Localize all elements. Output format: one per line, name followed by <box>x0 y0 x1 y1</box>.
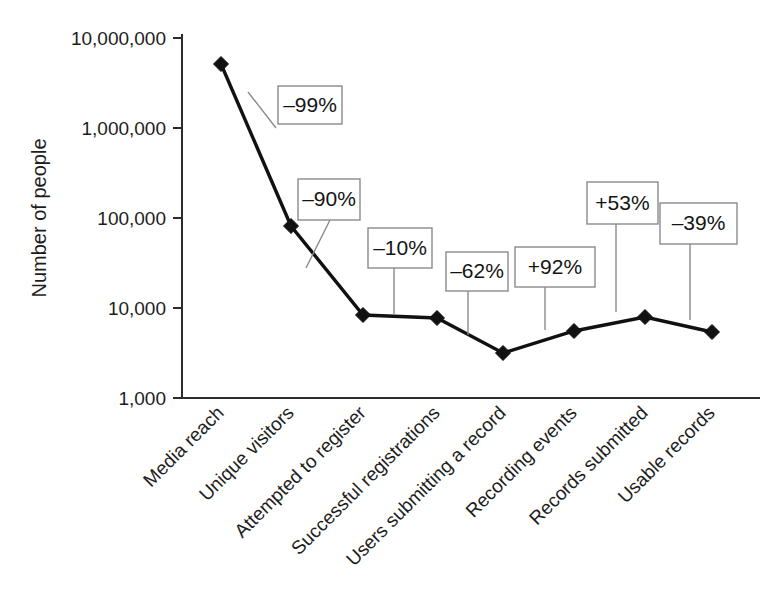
funnel-line-chart: 10,000,0001,000,000100,00010,0001,000 Nu… <box>0 0 773 606</box>
y-axis-title: Number of people <box>28 139 50 298</box>
y-axis-tick-label: 100,000 <box>97 208 166 229</box>
callout-label: –39% <box>672 211 726 234</box>
callout-label: –62% <box>450 259 504 282</box>
y-axis-tick-label: 1,000 <box>118 388 166 409</box>
chart-container: 10,000,0001,000,000100,00010,0001,000 Nu… <box>0 0 773 606</box>
y-axis-tick-label: 10,000,000 <box>71 28 166 49</box>
y-axis-title-text: Number of people <box>28 139 50 298</box>
callout-label: +92% <box>528 255 582 278</box>
y-axis-tick-label: 1,000,000 <box>81 118 166 139</box>
callout-label: +53% <box>595 191 649 214</box>
callout-label: –90% <box>302 187 356 210</box>
callout-label: –10% <box>373 236 427 259</box>
y-axis-tick-label: 10,000 <box>108 298 166 319</box>
callout-label: –99% <box>283 93 337 116</box>
